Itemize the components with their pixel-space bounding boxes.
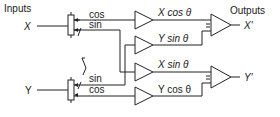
amp-label-x-sin: X sin θ	[157, 59, 189, 70]
amp-label-x-cos: X cos θ	[157, 7, 192, 18]
resolver-y-cos-label: cos	[89, 84, 105, 95]
amp-label-y-sin: Y sin θ	[158, 33, 189, 44]
resolver-x	[68, 12, 81, 38]
input-x-label: X	[23, 21, 31, 32]
inputs-label: Inputs	[4, 3, 31, 14]
input-y-label: Y	[25, 85, 32, 96]
resolver-y	[68, 77, 81, 103]
amplifier-y-cos	[135, 87, 153, 105]
output-y-label: Y′	[244, 72, 254, 83]
resolver-x-sin-label: sin	[89, 19, 102, 30]
amplifier-x-sin	[135, 63, 153, 81]
shaft-link-icon	[82, 58, 86, 75]
summer-y	[211, 66, 231, 88]
output-x-label: X′	[243, 20, 254, 31]
resolver-y-sin-label: sin	[89, 73, 102, 84]
amp-label-y-cos: Y cos θ	[158, 84, 192, 95]
summer-x	[211, 14, 231, 36]
coordinate-rotation-diagram: Inputs Outputs X Y cos sin sin cos	[0, 0, 280, 117]
amplifier-x-cos	[135, 11, 153, 29]
outputs-label: Outputs	[230, 5, 265, 16]
amplifier-y-sin	[135, 36, 153, 54]
